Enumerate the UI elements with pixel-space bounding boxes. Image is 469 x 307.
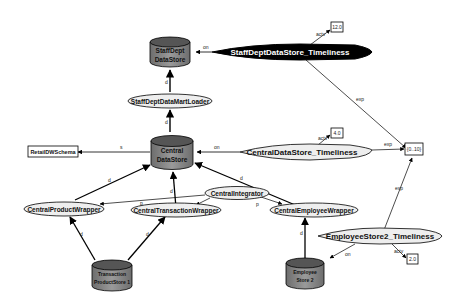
edge-label-actv: actv bbox=[316, 31, 326, 37]
process-product-wrapper[interactable]: CentralProductWrapper bbox=[24, 202, 104, 216]
edge-central-exp bbox=[372, 149, 404, 150]
edge-label-d: d bbox=[108, 177, 111, 183]
edge-label-d: d bbox=[146, 231, 149, 237]
value-box-employee: 2.0 bbox=[407, 254, 418, 264]
value-box-staffdept: 12.0 bbox=[331, 22, 343, 32]
process-label: StaffDeptDataMartLoader bbox=[131, 98, 210, 106]
quality-staffdept-timeliness[interactable]: StaffDeptDataStore_Timeliness bbox=[212, 44, 372, 60]
datastore-label-line1: Transaction bbox=[98, 271, 126, 277]
process-label: CentralProductWrapper bbox=[27, 206, 101, 214]
process-employee-wrapper[interactable]: CentralEmployeeWrapper bbox=[270, 203, 358, 217]
edge-employeewrapper-central bbox=[195, 163, 300, 207]
edge-label-exp: exp bbox=[384, 141, 392, 147]
edge-productstore-transactionwrapper bbox=[128, 217, 165, 260]
edge-integrator-productwrapper bbox=[100, 195, 205, 204]
datastore-label-line1: StaffDept bbox=[156, 47, 186, 55]
edge-label-d: d bbox=[165, 119, 168, 125]
edge-productstore-productwrapper bbox=[70, 217, 95, 260]
datastore-label-line1: Employee bbox=[293, 269, 317, 275]
datastore-label-line2: ProductStore 1 bbox=[94, 279, 130, 285]
edge-labels: on actv exp d d s on actv exp d d d p p … bbox=[80, 31, 404, 257]
datastore-label-line2: DataStore bbox=[155, 56, 186, 63]
process-integrator[interactable]: CentralIntegrator bbox=[205, 187, 269, 200]
process-label: CentralTransactionWrapper bbox=[133, 207, 219, 215]
value-label: 2.0 bbox=[409, 256, 416, 262]
process-transaction-wrapper[interactable]: CentralTransactionWrapper bbox=[131, 203, 221, 217]
edge-label-d: d bbox=[300, 230, 303, 236]
edge-label-exp: exp bbox=[356, 96, 364, 102]
process-label: CentralIntegrator bbox=[211, 190, 264, 198]
datastore-label-line2: DataStore bbox=[157, 156, 188, 163]
value-label: {0..10} bbox=[407, 146, 422, 152]
schema-retaildw[interactable]: RetailDWSchema bbox=[28, 146, 78, 157]
quality-central-timeliness[interactable]: CentralDataStore_Timeliness bbox=[240, 144, 372, 160]
edge-label-d: d bbox=[240, 175, 243, 181]
quality-label: CentralDataStore_Timeliness bbox=[246, 148, 358, 157]
quality-label: StaffDeptDataStore_Timeliness bbox=[231, 48, 351, 57]
edge-label-s: s bbox=[120, 144, 123, 150]
edge-label-on: on bbox=[214, 144, 220, 150]
datastore-employee[interactable]: Employee Store 2 bbox=[286, 258, 324, 289]
quality-label: EmployeeStore2_Timeliness bbox=[326, 232, 435, 241]
datastore-central[interactable]: Central DataStore bbox=[151, 136, 193, 170]
value-box-expected: {0..10} bbox=[405, 143, 423, 155]
quality-employee-timeliness[interactable]: EmployeeStore2_Timeliness bbox=[318, 228, 442, 244]
edge-label-on: on bbox=[345, 251, 351, 257]
value-box-central: 4.0 bbox=[331, 128, 343, 138]
datastore-label-line1: Central bbox=[161, 147, 184, 154]
datastore-staffdept[interactable]: StaffDept DataStore bbox=[150, 37, 190, 67]
diagram-canvas: on actv exp d d s on actv exp d d d p p … bbox=[0, 0, 469, 307]
datastore-label-line2: Store 2 bbox=[297, 277, 314, 283]
value-label: 12.0 bbox=[332, 24, 342, 30]
edge-label-d: d bbox=[170, 188, 173, 194]
value-label: 4.0 bbox=[334, 130, 341, 136]
edge-label-p: p bbox=[256, 201, 259, 207]
datastore-product[interactable]: Transaction ProductStore 1 bbox=[92, 260, 132, 291]
edge-label-d: d bbox=[165, 79, 168, 85]
edge-productwrapper-central bbox=[75, 165, 150, 200]
edge-label-on: on bbox=[203, 44, 209, 50]
process-label: CentralEmployeeWrapper bbox=[274, 207, 354, 215]
edge-label-d: d bbox=[80, 231, 83, 237]
schema-label: RetailDWSchema bbox=[30, 149, 76, 155]
edge-label-exp: exp bbox=[395, 185, 403, 191]
edge-employee-timeliness-on bbox=[330, 244, 355, 258]
edge-label-actv: actv bbox=[318, 135, 328, 141]
edge-transactionwrapper-central bbox=[173, 172, 176, 208]
process-staffdept-loader[interactable]: StaffDeptDataMartLoader bbox=[128, 94, 212, 108]
edge-employee-exp bbox=[384, 158, 412, 230]
edge-label-actv: actv bbox=[394, 248, 404, 254]
